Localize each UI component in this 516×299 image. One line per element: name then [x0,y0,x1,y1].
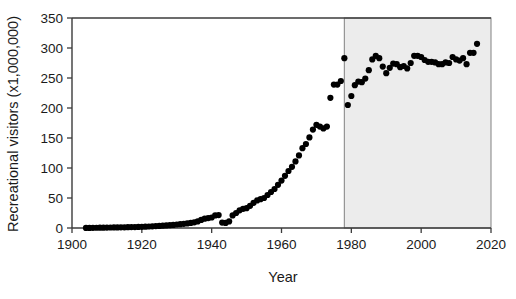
data-point [216,212,222,218]
data-point [296,152,302,158]
data-point [446,60,452,66]
data-point [324,124,330,130]
data-point [383,70,389,76]
data-point [226,218,232,224]
y-tick-label-350: 350 [40,11,63,26]
data-point [327,95,333,101]
data-point [306,134,312,140]
data-point [341,55,347,61]
data-point [289,164,295,170]
x-axis-title: Year [268,269,297,285]
data-point [362,76,368,82]
data-point [470,50,476,56]
x-tick-label-1940: 1940 [197,237,227,252]
data-point [404,65,410,71]
x-tick-label-1900: 1900 [57,237,87,252]
y-tick-label-150: 150 [40,131,63,146]
x-tick-label-2000: 2000 [406,237,436,252]
data-point [460,55,466,61]
y-axis-title: Recreational visitors (x1,000,000) [5,16,21,232]
y-tick-label-300: 300 [40,41,63,56]
data-point [463,61,469,67]
data-point [408,60,414,66]
data-point [376,55,382,61]
data-point [292,158,298,164]
x-tick-label-1960: 1960 [266,237,296,252]
data-point [345,102,351,108]
y-tick-label-100: 100 [40,161,63,176]
highlighted-period [344,18,491,228]
data-point [338,78,344,84]
x-tick-label-2020: 2020 [476,237,506,252]
data-point [348,93,354,99]
data-point [303,141,309,147]
data-point [474,41,480,47]
y-tick-label-200: 200 [40,101,63,116]
y-tick-label-0: 0 [55,221,63,236]
x-tick-label-1980: 1980 [336,237,366,252]
scatter-plot: 0501001502002503003501900192019401960198… [0,0,516,299]
highlighted-period-region [344,18,491,228]
data-point [380,64,386,70]
y-tick-label-50: 50 [48,191,63,206]
y-tick-label-250: 250 [40,71,63,86]
chart-figure: 0501001502002503003501900192019401960198… [0,0,516,299]
x-tick-label-1920: 1920 [127,237,157,252]
data-point [366,67,372,73]
